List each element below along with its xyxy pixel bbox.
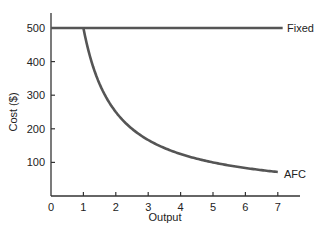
y-tick-label: 500 [27, 22, 45, 34]
x-tick-label: 5 [210, 201, 216, 213]
y-tick-label: 300 [27, 89, 45, 101]
afc-curve [83, 28, 277, 172]
fixed-cost-label: Fixed cost [287, 22, 314, 34]
y-tick-label: 100 [27, 156, 45, 168]
x-axis-label: Output [148, 211, 181, 223]
x-tick-label: 6 [242, 201, 248, 213]
y-tick-label: 400 [27, 56, 45, 68]
x-tick-label: 0 [48, 201, 54, 213]
y-axis-label: Cost ($) [7, 92, 19, 131]
average-fixed-cost-chart: 10020030040050001234567 Output Cost ($) … [0, 0, 314, 232]
x-tick-label: 7 [275, 201, 281, 213]
axes: 10020030040050001234567 [27, 13, 300, 213]
x-tick-label: 1 [80, 201, 86, 213]
afc-label: AFC [284, 168, 306, 180]
x-tick-label: 2 [113, 201, 119, 213]
series-layer [51, 28, 283, 172]
y-tick-label: 200 [27, 123, 45, 135]
